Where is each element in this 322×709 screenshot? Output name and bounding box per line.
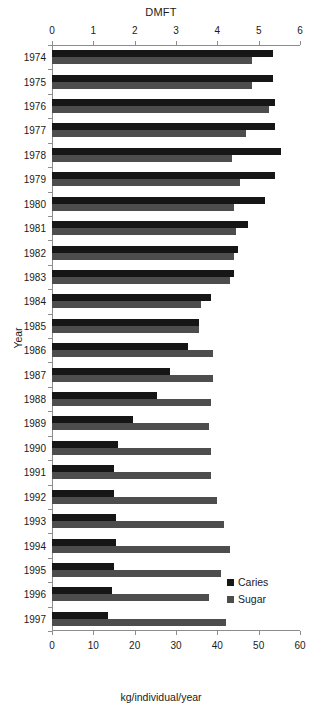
caries-bar <box>52 294 211 301</box>
caries-bar <box>52 539 116 546</box>
legend-item: Caries <box>227 574 268 591</box>
sugar-bar <box>52 594 209 601</box>
bar-row <box>52 343 300 357</box>
bar-row <box>52 294 300 308</box>
bar-row <box>52 416 300 430</box>
chart-legend: CariesSugar <box>227 574 268 608</box>
top-axis-tick <box>135 41 136 45</box>
sugar-bar <box>52 228 236 235</box>
caries-bar <box>52 75 273 82</box>
y-axis-tick-label: 1974 <box>24 52 46 63</box>
caries-bar <box>52 563 114 570</box>
bar-row <box>52 197 300 211</box>
y-axis-tick <box>48 362 52 363</box>
bottom-axis-tick <box>217 631 218 635</box>
bar-row <box>52 221 300 235</box>
sugar-bar <box>52 301 201 308</box>
caries-bar <box>52 465 114 472</box>
legend-swatch-icon <box>227 579 234 586</box>
bar-row <box>52 50 300 64</box>
y-axis-tick-label: 1993 <box>24 516 46 527</box>
y-axis-tick-label: 1982 <box>24 247 46 258</box>
caries-bar <box>52 50 273 57</box>
sugar-bar <box>52 375 213 382</box>
caries-bar <box>52 246 238 253</box>
y-axis-tick-label: 1990 <box>24 442 46 453</box>
y-axis-tick-label: 1976 <box>24 101 46 112</box>
bar-row <box>52 123 300 137</box>
bottom-axis-tick-label: 60 <box>294 640 305 651</box>
sugar-bar <box>52 130 246 137</box>
y-axis-tick-label: 1997 <box>24 613 46 624</box>
bar-row <box>52 172 300 186</box>
sugar-bar <box>52 521 224 528</box>
bottom-axis-tick <box>176 631 177 635</box>
bottom-axis-tick-label: 50 <box>253 640 264 651</box>
y-axis-tick <box>48 436 52 437</box>
bar-row <box>52 75 300 89</box>
bar-row <box>52 368 300 382</box>
caries-bar <box>52 148 281 155</box>
y-axis-tick <box>48 192 52 193</box>
sugar-bar <box>52 57 252 64</box>
y-axis-tick-label: 1979 <box>24 174 46 185</box>
bar-row <box>52 392 300 406</box>
y-axis-tick <box>48 94 52 95</box>
sugar-bar <box>52 326 199 333</box>
y-axis-tick-label: 1983 <box>24 271 46 282</box>
top-axis-tick-label: 3 <box>173 25 179 36</box>
legend-item: Sugar <box>227 591 268 608</box>
bar-row <box>52 539 300 553</box>
top-axis-tick-label: 6 <box>297 25 303 36</box>
bar-row <box>52 441 300 455</box>
top-axis-tick-label: 1 <box>91 25 97 36</box>
caries-bar <box>52 441 118 448</box>
top-axis-tick-label: 4 <box>215 25 221 36</box>
y-axis-tick <box>48 582 52 583</box>
y-axis-tick <box>48 118 52 119</box>
y-axis-tick-label: 1996 <box>24 589 46 600</box>
sugar-bar <box>52 277 230 284</box>
y-axis-label: Year <box>12 308 24 368</box>
sugar-bar <box>52 448 211 455</box>
sugar-bar <box>52 497 217 504</box>
y-axis-tick <box>48 411 52 412</box>
top-axis-tick-label: 0 <box>49 25 55 36</box>
dmft-sugar-chart: DMFT Year 012345601020304050601974197519… <box>0 0 322 709</box>
y-axis-tick <box>48 533 52 534</box>
y-axis-tick-label: 1992 <box>24 491 46 502</box>
top-axis-tick-label: 5 <box>256 25 262 36</box>
caries-bar <box>52 197 265 204</box>
bar-row <box>52 270 300 284</box>
top-axis-tick <box>259 41 260 45</box>
y-axis-tick <box>48 265 52 266</box>
caries-bar <box>52 490 114 497</box>
caries-bar <box>52 514 116 521</box>
sugar-bar <box>52 82 252 89</box>
bottom-axis-tick <box>93 631 94 635</box>
y-axis-tick-label: 1986 <box>24 345 46 356</box>
sugar-bar <box>52 155 232 162</box>
caries-bar <box>52 587 112 594</box>
bar-row <box>52 99 300 113</box>
bottom-axis-tick <box>259 631 260 635</box>
sugar-bar <box>52 350 213 357</box>
bottom-axis-tick-label: 20 <box>129 640 140 651</box>
bottom-axis-tick-label: 30 <box>170 640 181 651</box>
top-axis-tick <box>217 41 218 45</box>
bar-row <box>52 148 300 162</box>
caries-bar <box>52 319 199 326</box>
bar-row <box>52 319 300 333</box>
y-axis-tick-label: 1987 <box>24 369 46 380</box>
y-axis-tick <box>48 338 52 339</box>
bar-row <box>52 490 300 504</box>
y-axis-tick-label: 1980 <box>24 198 46 209</box>
y-axis-tick <box>48 289 52 290</box>
y-axis-tick <box>48 631 52 632</box>
sugar-bar <box>52 399 211 406</box>
y-axis-tick <box>48 509 52 510</box>
bottom-axis-tick <box>52 631 53 635</box>
y-axis-tick <box>48 558 52 559</box>
caries-bar <box>52 343 188 350</box>
caries-bar <box>52 612 108 619</box>
